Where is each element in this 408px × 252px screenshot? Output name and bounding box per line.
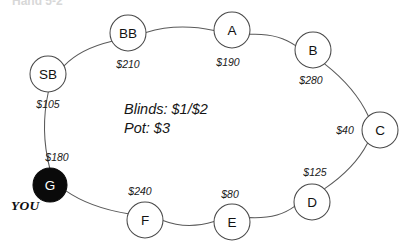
- seat-label-f: F: [141, 213, 149, 228]
- stack-amount-e: $80: [220, 188, 239, 200]
- ring-segment-f-to-g: [66, 191, 128, 214]
- ring-segment-sb-to-bb: [64, 41, 112, 66]
- stack-amount-b: $280: [298, 74, 323, 86]
- seat-label-d: D: [307, 195, 317, 210]
- blinds-text: Blinds: $1/$2: [124, 100, 208, 119]
- seat-nodes-group: SB$105BB$210A$190B$280C$40D$125E$80F$240…: [30, 12, 398, 240]
- seat-label-a: A: [227, 23, 236, 38]
- stack-amount-g: $180: [44, 151, 69, 163]
- seat-label-b: B: [308, 43, 317, 58]
- stack-amount-a: $190: [215, 56, 240, 68]
- pot-text: Pot: $3: [124, 119, 208, 138]
- stack-amount-d: $125: [302, 166, 327, 178]
- ring-segment-c-to-d: [324, 143, 367, 189]
- stack-amount-c: $40: [335, 124, 354, 136]
- seat-label-sb: SB: [39, 67, 57, 82]
- ring-segment-e-to-f: [163, 220, 214, 225]
- seat-label-bb: BB: [119, 26, 137, 41]
- seat-label-g: G: [45, 178, 56, 193]
- ring-segment-a-to-b: [249, 34, 295, 46]
- seat-label-c: C: [375, 123, 385, 138]
- stack-amount-bb: $210: [115, 58, 140, 70]
- ring-segment-bb-to-a: [146, 27, 214, 32]
- stack-amount-sb: $105: [35, 98, 60, 110]
- stack-amount-f: $240: [127, 185, 152, 197]
- ring-segment-d-to-e: [249, 206, 294, 217]
- ring-segment-b-to-c: [325, 64, 369, 116]
- hero-you-tag: YOU: [11, 198, 40, 214]
- poker-table-diagram: Hand 5-2 SB$105BB$210A$190B$280C$40D$125…: [0, 0, 408, 252]
- center-info-block: Blinds: $1/$2 Pot: $3: [124, 100, 208, 138]
- seat-label-e: E: [227, 215, 236, 230]
